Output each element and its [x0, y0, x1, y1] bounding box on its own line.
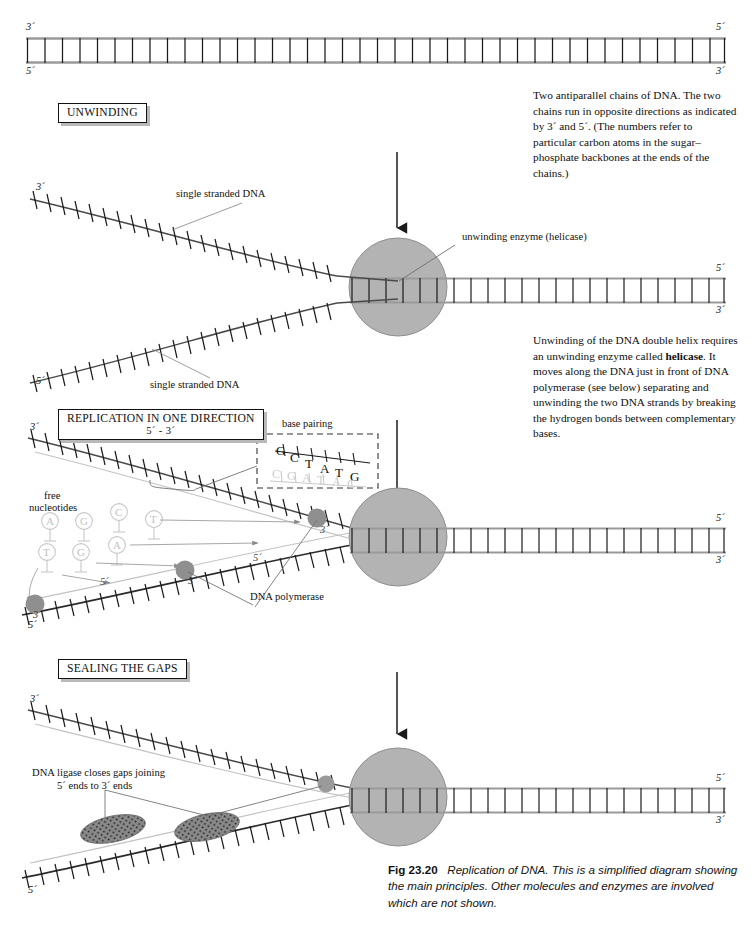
- prime-mark-p3-inner-b: 3´: [320, 523, 329, 536]
- prime-mark-p4-left-top: 3´: [30, 692, 39, 705]
- helicase-enzyme-circle-2: [349, 488, 447, 586]
- prime-mark-p4-left-bottom: 5´: [28, 883, 37, 896]
- base-letter-bottom-5: C: [347, 476, 355, 492]
- free-nucleotide-base-0: A: [46, 514, 54, 528]
- label-dna-polymerase: DNA polymerase: [250, 590, 324, 604]
- prime-mark-p3-right-bottom: 3´: [716, 553, 725, 566]
- prime-mark-p3-left-top: 3´: [30, 420, 39, 433]
- figure-caption: Fig 23.20 Replication of DNA. This is a …: [388, 862, 738, 911]
- label-dna-ligase-line1: DNA ligase closes gaps joining: [32, 766, 165, 780]
- panel-4-sealing: [22, 702, 726, 888]
- prime-mark-p3-inner-a: 5´: [253, 551, 262, 564]
- base-letter-top-0: G: [276, 443, 285, 460]
- figure-canvas: 3´ 5´ 5´ 3´ UNWINDING Two antiparallel c…: [0, 0, 754, 928]
- figure-number: Fig 23.20: [388, 863, 438, 876]
- label-single-stranded-dna-bottom: single stranded DNA: [150, 378, 239, 392]
- prime-mark-p3-inner-d: 3´: [188, 574, 197, 587]
- figure-title: Replication of DNA.: [447, 863, 548, 876]
- prime-mark-p3-inner-c: 5´: [100, 575, 109, 588]
- prime-mark-p3-right-top: 5´: [716, 511, 725, 524]
- stage-label-sealing-text: SEALING THE GAPS: [67, 662, 178, 675]
- stage-label-replication-sub: 5´ - 3´: [67, 425, 255, 436]
- free-nucleotide-base-6: A: [113, 538, 121, 552]
- side-note-antiparallel: Two antiparallel chains of DNA. The two …: [533, 88, 738, 181]
- stage-label-unwinding: UNWINDING: [58, 103, 147, 123]
- prime-mark-p1-left-bottom: 5´: [26, 64, 35, 77]
- label-helicase: unwinding enzyme (helicase): [462, 230, 587, 244]
- base-letter-bottom-1: G: [287, 468, 296, 484]
- figure-caption-rest: This is a simplified diagram showing the…: [388, 863, 737, 909]
- prime-mark-p3-inner-e: 3´: [33, 608, 42, 621]
- free-nucleotide-base-3: T: [150, 512, 157, 526]
- stage-label-unwinding-text: UNWINDING: [67, 106, 138, 119]
- label-dna-ligase-line2: 5´ ends to 3´ ends: [57, 779, 132, 793]
- free-nucleotide-base-4: T: [43, 545, 50, 559]
- base-letter-bottom-3: T: [317, 472, 325, 488]
- base-letter-bottom-2: A: [302, 470, 311, 486]
- dna-polymerase-blob-4: [318, 776, 335, 793]
- side-note-helicase: Unwinding of the DNA double helix requir…: [533, 333, 738, 442]
- label-single-stranded-dna-top: single stranded DNA: [176, 187, 265, 201]
- label-base-pairing: base pairing: [282, 417, 333, 430]
- prime-mark-p1-left-top: 3´: [26, 20, 35, 33]
- prime-mark-p2-right-top: 5´: [716, 261, 725, 274]
- helicase-enzyme-circle-3: [349, 748, 447, 846]
- base-letter-bottom-0: C: [272, 466, 280, 482]
- label-free-nucleotides-line2: nucleotides: [29, 501, 77, 515]
- stage-label-sealing: SEALING THE GAPS: [58, 659, 187, 679]
- prime-mark-p2-left-top: 3´: [36, 180, 45, 193]
- base-letter-top-1: C: [290, 450, 299, 467]
- panel-3-replication: [22, 430, 726, 625]
- prime-mark-p4-right-bottom: 3´: [716, 813, 725, 826]
- free-nucleotide-base-5: G: [77, 545, 85, 559]
- panel-1-double-helix: [26, 38, 726, 63]
- prime-mark-p1-right-bottom: 3´: [716, 64, 725, 77]
- prime-mark-p2-right-bottom: 3´: [716, 303, 725, 316]
- free-nucleotide-base-1: G: [80, 514, 88, 528]
- prime-mark-p2-left-bottom: 5´: [36, 374, 45, 387]
- prime-mark-p1-right-top: 5´: [716, 20, 725, 33]
- helicase-enzyme-circle: [349, 238, 447, 336]
- stage-label-replication-text: REPLICATION IN ONE DIRECTION: [67, 412, 255, 425]
- prime-mark-p4-right-top: 5´: [716, 771, 725, 784]
- side-note-helicase-tail: . It moves along the DNA just in front o…: [533, 350, 736, 440]
- side-note-helicase-bold: helicase: [665, 350, 703, 362]
- stage-label-replication: REPLICATION IN ONE DIRECTION 5´ - 3´: [58, 409, 264, 440]
- base-letter-bottom-4: A: [332, 474, 341, 490]
- free-nucleotide-base-2: C: [115, 505, 122, 519]
